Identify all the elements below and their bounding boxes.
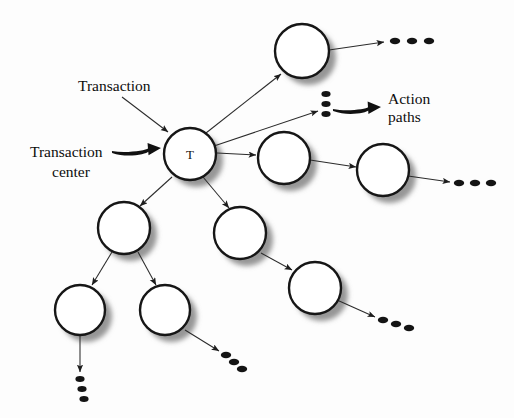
node-circle[interactable] <box>275 24 329 78</box>
node-circle[interactable] <box>357 144 409 196</box>
node-circle[interactable] <box>55 285 105 335</box>
edge-midlower-to-lr <box>261 253 292 270</box>
node-n-lower-right[interactable] <box>289 262 341 314</box>
dot <box>221 352 231 358</box>
edge-t-to-mid-lower <box>203 177 229 208</box>
edge-t-to-right-mid <box>217 153 256 155</box>
dot <box>391 321 401 327</box>
node-label: T <box>186 147 194 162</box>
node-circle[interactable] <box>289 262 341 314</box>
dot <box>454 180 464 186</box>
node-circle[interactable] <box>214 207 266 259</box>
node-n-right-far[interactable] <box>357 144 409 196</box>
edge-t-to-left-branch <box>140 177 172 206</box>
dot <box>321 111 330 117</box>
dot <box>404 325 414 331</box>
annot-transaction-center-pointer <box>112 143 161 156</box>
dot <box>424 38 434 44</box>
dots-bottom-ellipsis <box>75 376 88 402</box>
dots-bottom-mid-ellipsis <box>221 352 247 372</box>
dot <box>470 180 480 186</box>
dot <box>407 38 417 44</box>
edge-t-to-top-right <box>206 74 281 133</box>
nodes-layer: T <box>55 24 409 335</box>
dot <box>390 38 400 44</box>
node-n-left-branch[interactable] <box>98 202 150 254</box>
dot <box>229 359 239 365</box>
node-n-mid-lower[interactable] <box>214 207 266 259</box>
annot-transaction-center-label-line2: center <box>52 163 91 180</box>
transaction-center-diagram: T TransactionTransactioncenterActionpath… <box>0 0 514 418</box>
dot <box>378 317 388 323</box>
dots-right-far-ellipsis <box>454 180 496 186</box>
annot-action-paths: Actionpaths <box>333 90 431 125</box>
dot <box>321 101 330 107</box>
edge-topright-to-dots <box>329 42 384 50</box>
node-n-bottom-mid[interactable] <box>140 285 190 335</box>
annot-transaction-pointer <box>122 97 168 132</box>
annot-action-paths-pointer <box>333 102 381 114</box>
annot-transaction-label: Transaction <box>78 77 151 94</box>
dot <box>79 396 88 402</box>
annot-transaction-center: Transactioncenter <box>30 143 161 180</box>
edge-leftbranch-to-bl <box>92 252 112 285</box>
dots-top-right-ellipsis <box>390 38 434 44</box>
dots-lower-right-ellipsis <box>378 317 414 331</box>
dot <box>75 376 84 382</box>
dot <box>486 180 496 186</box>
node-circle[interactable] <box>258 132 310 184</box>
dot <box>237 366 247 372</box>
dot <box>77 386 86 392</box>
edge-bm-to-dots <box>185 330 219 351</box>
node-circle[interactable] <box>140 285 190 335</box>
node-n-right-mid[interactable] <box>258 132 310 184</box>
diagram-canvas: T TransactionTransactioncenterActionpath… <box>0 0 514 418</box>
annot-transaction: Transaction <box>78 77 168 132</box>
annot-action-paths-label-line1: Action <box>388 90 430 107</box>
node-circle[interactable] <box>98 202 150 254</box>
node-T[interactable]: T <box>164 128 216 180</box>
dots-stack-ellipsis <box>321 91 330 117</box>
node-n-bottom-left[interactable] <box>55 285 105 335</box>
annot-action-paths-label-line2: paths <box>388 108 421 125</box>
edge-leftbranch-to-bm <box>138 252 156 285</box>
dot <box>321 91 330 97</box>
node-n-top-right[interactable] <box>275 24 329 78</box>
annot-transaction-center-label-line1: Transaction <box>30 143 103 160</box>
